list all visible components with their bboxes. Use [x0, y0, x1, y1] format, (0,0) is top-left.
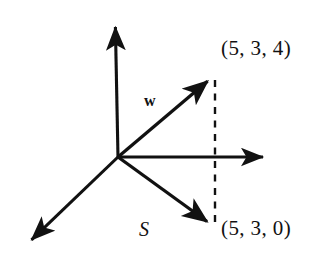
- vector-label-w: w: [144, 93, 156, 109]
- vector-s-line: [118, 157, 207, 222]
- point-label-s: (5, 3, 0): [221, 218, 291, 239]
- vector-diagram-figure: (5, 3, 4) (5, 3, 0) w S: [0, 0, 315, 267]
- vector-label-s: S: [139, 219, 149, 239]
- point-label-w: (5, 3, 4): [221, 38, 291, 59]
- x-axis-line: [32, 157, 119, 240]
- z-axis-line: [115, 27, 118, 157]
- vector-w-line: [118, 81, 208, 157]
